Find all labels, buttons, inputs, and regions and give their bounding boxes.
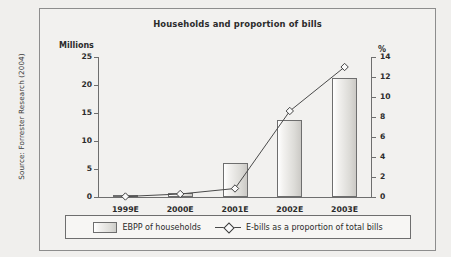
y-axis-left-tick-label: 5 (74, 164, 92, 173)
bar-swatch-icon (93, 222, 117, 233)
y-axis-right-tick (372, 57, 376, 58)
diamond-data-point (231, 185, 238, 192)
diamond-data-point (177, 190, 184, 197)
legend-item-bar: EBPP of households (93, 222, 201, 233)
chart-title: Households and proportion of bills (40, 19, 435, 29)
plot-area: 0510152025 02468101214 1999E2000E2001E20… (98, 57, 372, 197)
y-axis-right-tick (372, 117, 376, 118)
y-axis-unit-label: Millions (59, 41, 94, 50)
source-caption: Source: Forrester Research (2004) (17, 42, 26, 192)
y-axis-right-tick (372, 97, 376, 98)
y-axis-right-tick-label: 14 (380, 52, 391, 61)
legend-item-line: E-bills as a proportion of total bills (215, 223, 383, 232)
y-axis-right-tick (372, 157, 376, 158)
diamond-marker-icon (223, 222, 234, 233)
line-marker-icon (215, 223, 241, 232)
y-axis-left-tick-label: 0 (74, 192, 92, 201)
chart-page: Source: Forrester Research (2004) E = ye… (0, 0, 451, 257)
y-axis-right-tick-label: 6 (380, 132, 385, 141)
chart-legend: EBPP of households E-bills as a proporti… (65, 215, 411, 239)
y-axis-right-tick (372, 137, 376, 138)
y-axis-right-tick (372, 177, 376, 178)
y-axis-left-tick-label: 25 (74, 52, 92, 61)
y-axis-right-tick-label: 0 (380, 192, 385, 201)
y-axis-left-tick (94, 197, 98, 198)
line-series (98, 57, 372, 197)
y-axis-right-tick-label: 8 (380, 112, 385, 121)
x-axis-tick-label: 2001E (210, 205, 260, 214)
diamond-data-point (122, 193, 129, 200)
y-axis-right-tick (372, 197, 376, 198)
chart-frame: Households and proportion of bills Milli… (39, 8, 436, 251)
x-axis-tick-label: 2000E (155, 205, 205, 214)
x-axis-tick-label: 1999E (100, 205, 150, 214)
x-axis-line (98, 197, 372, 198)
y-axis-left-tick-label: 20 (74, 80, 92, 89)
line-path (125, 67, 344, 197)
x-axis-tick-label: 2002E (265, 205, 315, 214)
legend-label-line: E-bills as a proportion of total bills (246, 223, 383, 232)
y-axis-right-tick-label: 4 (380, 152, 385, 161)
y-axis-left-tick-label: 15 (74, 108, 92, 117)
legend-label-bar: EBPP of households (122, 223, 201, 232)
y-axis-right-tick-label: 2 (380, 172, 385, 181)
y-axis-right-tick-label: 12 (380, 72, 391, 81)
y-axis-right-tick (372, 77, 376, 78)
y-axis-right-tick-label: 10 (380, 92, 391, 101)
x-axis-tick-label: 2003E (320, 205, 370, 214)
y-axis-left-tick-label: 10 (74, 136, 92, 145)
